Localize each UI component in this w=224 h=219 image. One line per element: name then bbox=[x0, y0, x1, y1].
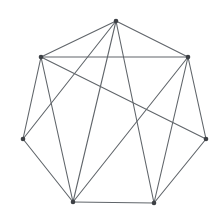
edge-v3-v5 bbox=[188, 57, 206, 139]
edge-v1-v3 bbox=[116, 21, 188, 57]
edge-v1-v7 bbox=[116, 21, 154, 203]
edge-v2-v6 bbox=[41, 57, 73, 202]
vertex-upper-right bbox=[186, 55, 191, 60]
vertex-left bbox=[21, 137, 26, 142]
graph-canvas bbox=[0, 0, 224, 219]
vertex-bottom-right bbox=[152, 201, 157, 206]
vertex-top bbox=[114, 19, 119, 24]
vertex-right bbox=[204, 137, 209, 142]
edge-v6-v7 bbox=[73, 202, 154, 203]
edge-v2-v5 bbox=[41, 57, 206, 139]
graph-svg bbox=[0, 0, 224, 219]
edge-v1-v2 bbox=[41, 21, 116, 57]
vertex-upper-left bbox=[39, 55, 44, 60]
vertex-bottom-left bbox=[71, 200, 76, 205]
